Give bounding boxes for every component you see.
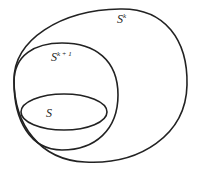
inner-set-boundary <box>21 94 107 130</box>
inner-set-label: S <box>46 106 52 120</box>
middle-set-boundary <box>14 43 118 150</box>
middle-set-label: Sk + 1 <box>51 50 72 64</box>
outer-set-label: Sk <box>117 12 127 26</box>
nested-sets-diagram: Sk Sk + 1 S <box>0 0 199 170</box>
outer-set-boundary <box>14 9 187 162</box>
